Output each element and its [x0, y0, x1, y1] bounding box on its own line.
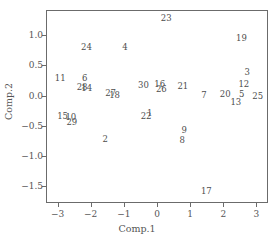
x-axis-label: Comp.1: [0, 223, 274, 234]
data-point-label: 24: [81, 43, 92, 52]
data-point-label: 9: [181, 126, 186, 135]
data-point-label: 11: [55, 74, 66, 83]
data-point-label: 30: [138, 81, 149, 90]
x-axis-tick: [223, 203, 224, 207]
y-axis-tick-label: −0.5: [21, 121, 43, 131]
y-axis-tick-label: 0.5: [29, 60, 43, 70]
y-axis-tick-label: −1.0: [21, 151, 43, 161]
data-point-label: 8: [179, 135, 184, 144]
data-point-label: 28: [77, 82, 88, 91]
x-axis-tick-label: 3: [254, 209, 260, 219]
data-point-label: 2: [103, 135, 108, 144]
x-axis-tick: [256, 203, 257, 207]
data-point-label: 21: [177, 82, 188, 91]
y-axis-tick-label: 1.0: [29, 30, 43, 40]
scatter-plot: 1234567891011121314151617181920212223242…: [0, 0, 274, 240]
x-axis-tick-label: 0: [154, 209, 160, 219]
data-point-label: 7: [201, 91, 206, 100]
data-point-label: 26: [156, 85, 167, 94]
x-axis-tick-label: −2: [84, 209, 97, 219]
data-point-label: 23: [161, 14, 172, 23]
x-axis-tick-label: 2: [220, 209, 226, 219]
data-point-label: 25: [252, 91, 263, 100]
data-point-label: 12: [238, 80, 249, 89]
x-axis-tick: [58, 203, 59, 207]
y-axis-tick-label: −1.5: [21, 181, 43, 191]
y-axis-tick-label: 0.0: [29, 91, 43, 101]
data-point-layer: 1234567891011121314151617181920212223242…: [46, 10, 268, 203]
data-point-label: 19: [236, 34, 247, 43]
data-point-label: 27: [105, 88, 116, 97]
x-axis-tick: [91, 203, 92, 207]
x-axis-tick: [157, 203, 158, 207]
data-point-label: 20: [220, 90, 231, 99]
x-axis-tick-label: −3: [51, 209, 64, 219]
x-axis-tick-label: −1: [117, 209, 130, 219]
data-point-label: 22: [141, 111, 152, 120]
x-axis-tick: [124, 203, 125, 207]
x-axis-tick-label: 1: [187, 209, 193, 219]
data-point-label: 17: [201, 187, 212, 196]
data-point-label: 13: [230, 97, 241, 106]
data-point-label: 4: [122, 43, 127, 52]
data-point-label: 29: [66, 117, 77, 126]
x-axis-tick: [190, 203, 191, 207]
y-axis-label: Comp.2: [3, 72, 14, 132]
data-point-label: 3: [244, 67, 249, 76]
